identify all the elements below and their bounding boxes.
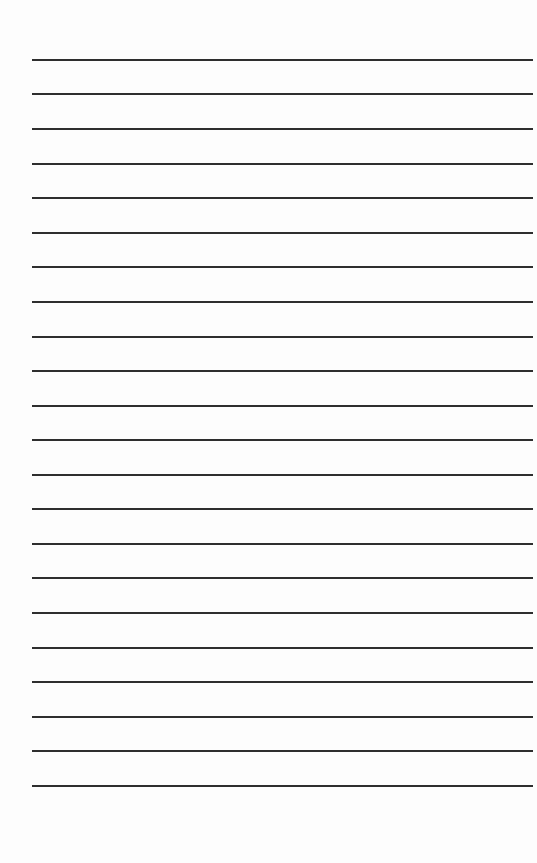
lined-paper-page xyxy=(0,0,537,863)
ruled-line xyxy=(32,681,533,683)
ruled-line xyxy=(32,197,533,199)
ruled-line xyxy=(32,370,533,372)
ruled-line xyxy=(32,577,533,579)
ruled-line xyxy=(32,716,533,718)
ruled-line xyxy=(32,543,533,545)
ruled-line xyxy=(32,93,533,95)
ruled-line xyxy=(32,785,533,787)
ruled-line xyxy=(32,474,533,476)
ruled-line xyxy=(32,750,533,752)
ruled-line xyxy=(32,508,533,510)
ruled-line xyxy=(32,59,533,61)
ruled-line xyxy=(32,266,533,268)
ruled-line xyxy=(32,128,533,130)
ruled-line xyxy=(32,405,533,407)
ruled-line xyxy=(32,336,533,338)
ruled-line xyxy=(32,301,533,303)
ruled-line xyxy=(32,612,533,614)
ruled-line xyxy=(32,439,533,441)
ruled-line xyxy=(32,163,533,165)
ruled-line xyxy=(32,232,533,234)
ruled-line xyxy=(32,647,533,649)
